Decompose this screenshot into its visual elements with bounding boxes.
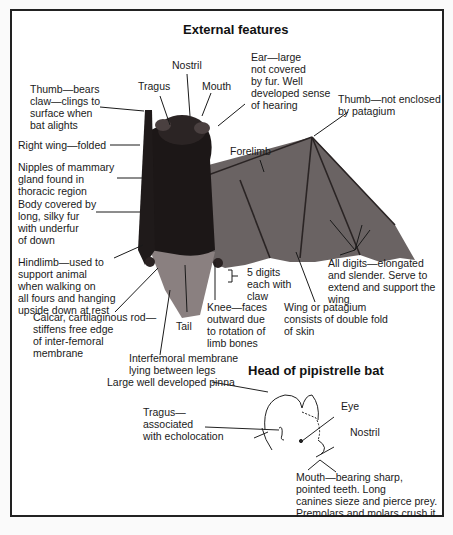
label-knee: Knee—faces outward due to rotation of li… [207, 301, 267, 349]
pipistrelle-head-sketch [205, 382, 336, 472]
label-hindlimb: Hindlimb—used to support animal when wal… [18, 256, 116, 316]
label-all-digits: All digits—elongated and slender. Serve … [328, 257, 435, 305]
interfemoral-membrane [150, 250, 215, 318]
label-wing-patagium: Wing or patagium consists of double fold… [284, 301, 388, 337]
label-thumb-not-enclosed: Thumb—not enclosed by patagium [338, 93, 441, 117]
label-nipples: Nipples of mammary gland found in thorac… [18, 161, 114, 197]
label-right-wing: Right wing—folded [18, 139, 106, 151]
label-forelimb: Forelimb [230, 145, 271, 157]
title-head-of-pipistrelle: Head of pipistrelle bat [248, 363, 384, 378]
label-mouth: Mouth [202, 80, 231, 92]
right-wing-folded [138, 110, 155, 265]
label-tragus: Tragus [138, 80, 170, 92]
label-interfemoral: Interfemoral membrane lying between legs [129, 352, 238, 376]
head-label-nostril: Nostril [350, 426, 380, 438]
label-tail: Tail [176, 320, 192, 332]
head-label-mouth: Mouth—bearing sharp, pointed teeth. Long… [296, 471, 437, 519]
left-wing-membrane [190, 137, 415, 268]
label-thumb-claw: Thumb—bears claw—clings to surface when … [30, 83, 100, 131]
head-label-tragus: Tragus— associated with echolocation [143, 406, 224, 442]
label-body-fur: Body covered by long, silky fur with und… [18, 198, 96, 246]
head-label-pinna: Large well developed pinna [107, 376, 235, 388]
label-ear: Ear—large not covered by fur. Well devel… [251, 51, 330, 111]
head-label-eye: Eye [341, 400, 359, 412]
label-nostril: Nostril [172, 59, 202, 71]
label-five-digits: 5 digits each with claw [247, 266, 291, 302]
title-external-features: External features [183, 22, 289, 37]
